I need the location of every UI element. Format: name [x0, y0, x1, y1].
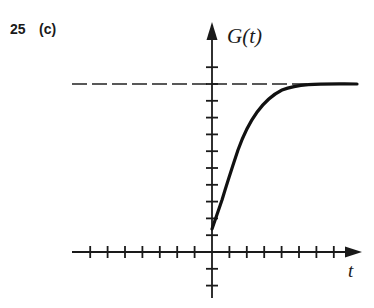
- curve-G: [212, 84, 357, 229]
- y-axis-label: G(t): [227, 24, 262, 48]
- y-axis-arrow-icon: [207, 22, 218, 40]
- x-axis-arrow-icon: [345, 247, 362, 258]
- chart: G(t) t: [0, 0, 374, 308]
- x-axis-label: t: [348, 260, 354, 281]
